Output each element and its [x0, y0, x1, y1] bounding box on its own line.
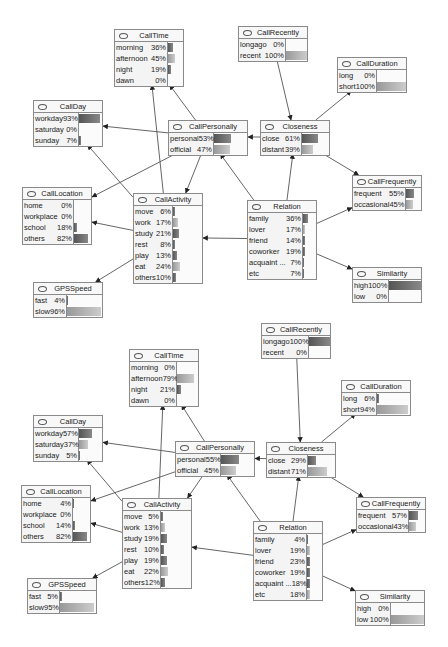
state-row: play13%	[134, 250, 172, 261]
node-callday-top[interactable]: CallDayworkday93%saturday0%sunday7%	[33, 100, 103, 147]
node-similarity-bottom[interactable]: Similarityhigh0%low100%	[355, 590, 425, 626]
edge-closeness-to-callduration	[322, 414, 356, 442]
node-header[interactable]: Similarity	[356, 591, 424, 603]
node-gpsspeed-top[interactable]: GPSSpeedfast4%slow96%	[33, 282, 103, 318]
node-similarity-top[interactable]: Similarityhigh100%low0%	[352, 267, 422, 303]
node-relation-top[interactable]: Relationfamily36%lover17%friend14%cowork…	[247, 200, 317, 280]
state-row: work13%	[123, 522, 160, 533]
node-calllocation-top[interactable]: CallLocationhome0%workplace0%school18%ot…	[22, 187, 92, 245]
edge-callrecently-to-closeness	[277, 60, 291, 120]
probability-bar	[73, 499, 74, 508]
edge-relation-to-callactivity	[203, 238, 247, 239]
node-gpsspeed-bottom[interactable]: GPSSpeedfast5%slow95%	[27, 578, 97, 614]
state-probability: 39%	[285, 144, 300, 155]
node-header[interactable]: Similarity	[353, 268, 421, 280]
state-label: home	[23, 498, 42, 509]
state-label: school	[24, 222, 46, 233]
node-callactivity-top[interactable]: CallActivitymove6%work17%study21%rest8%p…	[133, 193, 203, 284]
edge-callpersonally-to-callday	[103, 442, 175, 452]
node-header[interactable]: CallFrequently	[353, 176, 421, 188]
node-header[interactable]: CallActivity	[123, 499, 191, 511]
node-relation-bottom[interactable]: Relationfamily4%lover19%friend23%coworke…	[253, 521, 323, 601]
node-callduration-top[interactable]: CallDurationlong0%short100%	[337, 57, 407, 93]
node-header[interactable]: Relation	[248, 201, 316, 213]
node-header[interactable]: CallActivity	[134, 194, 202, 206]
node-header[interactable]: Closeness	[261, 121, 329, 133]
edge-relation-to-callfrequently	[317, 208, 352, 224]
node-ellipse-icon	[271, 446, 280, 452]
state-label: eat	[135, 261, 145, 272]
node-callrecently-top[interactable]: CallRecentlylongago0%recent100%	[238, 26, 308, 62]
node-header[interactable]: CallDay	[34, 416, 102, 428]
node-title: CallDay	[50, 417, 86, 426]
state-row: workday93%	[34, 113, 78, 124]
node-calltime-bottom[interactable]: CallTimemorning0%afternoon79%night21%daw…	[129, 349, 199, 407]
node-header[interactable]: CallDuration	[338, 58, 406, 70]
node-header[interactable]: CallRecently	[262, 324, 330, 336]
state-label: school	[23, 520, 45, 531]
state-probability: 14%	[286, 235, 301, 246]
state-probability: 0%	[61, 211, 72, 222]
state-label: night	[131, 384, 147, 395]
node-calltime-top[interactable]: CallTimemorning36%afternoon45%night19%da…	[114, 29, 184, 87]
node-closeness-top[interactable]: Closenessclose61%distant39%	[260, 120, 330, 156]
node-callpersonally-bottom[interactable]: CallPersonallypersonal55%official45%	[175, 441, 255, 477]
node-callfrequently-top[interactable]: CallFrequentlyfrequent55%occasional45%	[352, 175, 422, 211]
state-probability: 4%	[294, 534, 305, 545]
state-label: others	[135, 272, 156, 283]
node-callfrequently-bottom[interactable]: CallFrequentlyfrequent57%occasional43%	[356, 497, 426, 533]
node-header[interactable]: CallRecently	[239, 27, 307, 39]
node-header[interactable]: Relation	[254, 522, 322, 534]
state-probability: 0%	[273, 39, 284, 50]
node-header[interactable]: Closeness	[267, 443, 335, 455]
node-title: Relation	[263, 202, 301, 211]
node-header[interactable]: CallLocation	[22, 486, 90, 498]
node-header[interactable]: CallDay	[34, 101, 102, 113]
node-header[interactable]: CallTime	[115, 30, 183, 42]
probability-bar	[302, 134, 318, 143]
probability-bar	[168, 54, 175, 63]
state-label: morning	[116, 42, 143, 53]
state-probability: 57%	[392, 510, 407, 521]
node-title: CallActivity	[134, 500, 181, 509]
node-header[interactable]: CallDuration	[342, 381, 410, 393]
state-probability: 8%	[160, 239, 171, 250]
state-probability: 37%	[64, 439, 79, 450]
state-label: study	[135, 228, 153, 239]
node-calllocation-bottom[interactable]: CallLocationhome4%workplace0%school14%ot…	[21, 485, 91, 543]
probability-bar	[307, 546, 310, 555]
state-label: distant	[262, 144, 284, 155]
probability-bar	[67, 307, 101, 316]
edge-relation-to-closeness	[287, 154, 293, 200]
state-row: afternoon45%	[115, 53, 167, 64]
node-header[interactable]: GPSSpeed	[28, 579, 96, 591]
probability-bar	[303, 258, 304, 267]
state-label: long	[339, 70, 353, 81]
state-row: school18%	[23, 222, 73, 233]
node-callactivity-bottom[interactable]: CallActivitymove5%work13%study19%rest10%…	[122, 498, 192, 589]
edge-callactivity-to-gpsspeed	[93, 562, 122, 578]
state-row: workplace0%	[23, 211, 73, 222]
state-label: friend	[249, 235, 268, 246]
node-header[interactable]: CallPersonally	[169, 121, 247, 133]
node-header[interactable]: CallFrequently	[357, 498, 425, 510]
node-callday-bottom[interactable]: CallDayworkday57%saturday37%sunday5%	[33, 415, 103, 462]
node-title: CallActivity	[145, 195, 192, 204]
edge-relation-to-similarity	[317, 254, 352, 269]
probability-bar	[307, 579, 310, 588]
state-probability: 55%	[389, 188, 404, 199]
node-closeness-bottom[interactable]: Closenessclose29%distant71%	[266, 442, 336, 478]
node-header[interactable]: GPSSpeed	[34, 283, 102, 295]
state-probability: 0%	[61, 200, 72, 211]
node-callrecently-bottom[interactable]: CallRecentlylongago100%recent0%	[261, 323, 331, 359]
node-header[interactable]: CallPersonally	[176, 442, 254, 454]
node-title: CallLocation	[31, 189, 82, 198]
state-label: workplace	[23, 509, 57, 520]
state-label: slow	[35, 306, 50, 317]
node-header[interactable]: CallLocation	[23, 188, 91, 200]
node-callduration-bottom[interactable]: CallDurationlong6%short94%	[341, 380, 411, 416]
node-header[interactable]: CallTime	[130, 350, 198, 362]
node-callpersonally-top[interactable]: CallPersonallypersonal53%official47%	[168, 120, 248, 156]
state-label: fast	[35, 295, 47, 306]
state-row: recent0%	[262, 347, 308, 358]
